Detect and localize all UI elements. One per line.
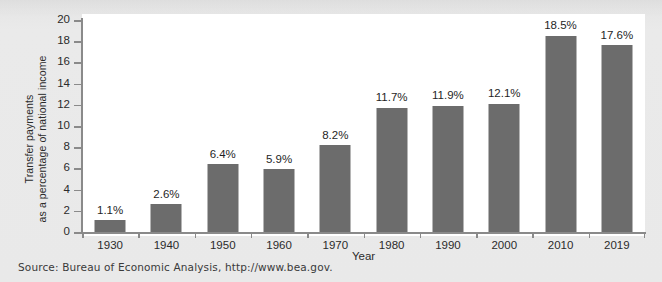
x-axis-tick-mark [307,232,309,238]
x-axis-tick-mark [364,232,366,238]
y-axis-tick-mark [74,84,81,86]
source-note: Source: Bureau of Economic Analysis, htt… [18,261,333,273]
x-axis-tick-mark [589,232,591,238]
x-axis-tick-mark [138,232,140,238]
x-axis-tick-mark [251,232,253,238]
bar-slot[interactable]: 8.2% [307,14,363,232]
bar-value-label: 5.9% [266,154,292,166]
bar-slot[interactable]: 1.1% [82,14,138,232]
bar[interactable] [207,164,238,232]
bar-value-label: 12.1% [488,88,521,100]
bar[interactable] [432,106,463,232]
y-axis-tick-mark [74,41,81,43]
bar-value-label: 11.7% [376,92,408,104]
bar-slot[interactable]: 5.9% [251,14,307,232]
x-axis-tick-mark [532,232,534,238]
y-axis-tick-mark [74,20,81,22]
bar-slot[interactable]: 11.7% [364,14,420,232]
bar-value-label: 8.2% [322,130,348,142]
y-axis-title: Transfer payments as a percentage of nat… [23,32,49,247]
bar-value-label: 6.4% [210,149,236,161]
bar[interactable] [601,45,632,232]
x-axis-tick-mark [420,232,422,238]
bar[interactable] [489,104,520,232]
bar-value-label: 17.6% [601,30,634,42]
y-axis-tick-mark [74,232,81,234]
bar[interactable] [376,108,407,232]
y-axis-title-line-1: Transfer payments [23,32,36,247]
bar-slot[interactable]: 11.9% [420,14,476,232]
bar[interactable] [95,220,126,232]
bar-value-label: 11.9% [432,90,464,102]
y-axis-tick-mark [74,168,81,170]
bar-value-label: 18.5% [544,20,577,32]
x-axis-tick-mark [476,232,478,238]
bar-slot[interactable]: 6.4% [195,14,251,232]
bar-slot[interactable]: 17.6% [589,14,645,232]
bar[interactable] [545,36,576,232]
bar[interactable] [151,204,182,232]
y-axis-title-line-2: as a percentage of national income [36,32,49,247]
y-axis-tick-mark [74,62,81,64]
y-axis-tick-mark [74,190,81,192]
bar-slot[interactable]: 12.1% [476,14,532,232]
bar[interactable] [320,145,351,232]
y-axis-tick-mark [74,147,81,149]
bar[interactable] [264,169,295,232]
x-axis-tick-mark [82,232,84,238]
bar-slot[interactable]: 2.6% [138,14,194,232]
y-axis-tick-label: 20 [12,14,70,26]
bar-value-label: 1.1% [97,205,123,217]
bar-value-label: 2.6% [153,189,179,201]
x-axis-tick-mark [195,232,197,238]
bar-chart-figure: 02468101214161820 Transfer payments as a… [0,0,662,282]
y-axis-tick-mark [74,105,81,107]
x-axis-tick-mark [644,232,646,238]
bars-layer: 1.1%2.6%6.4%5.9%8.2%11.7%11.9%12.1%18.5%… [82,14,645,232]
y-axis-tick-mark [74,126,81,128]
bar-slot[interactable]: 18.5% [532,14,588,232]
y-axis-tick-row: 20 [0,20,82,21]
y-axis-tick-mark [74,211,81,213]
